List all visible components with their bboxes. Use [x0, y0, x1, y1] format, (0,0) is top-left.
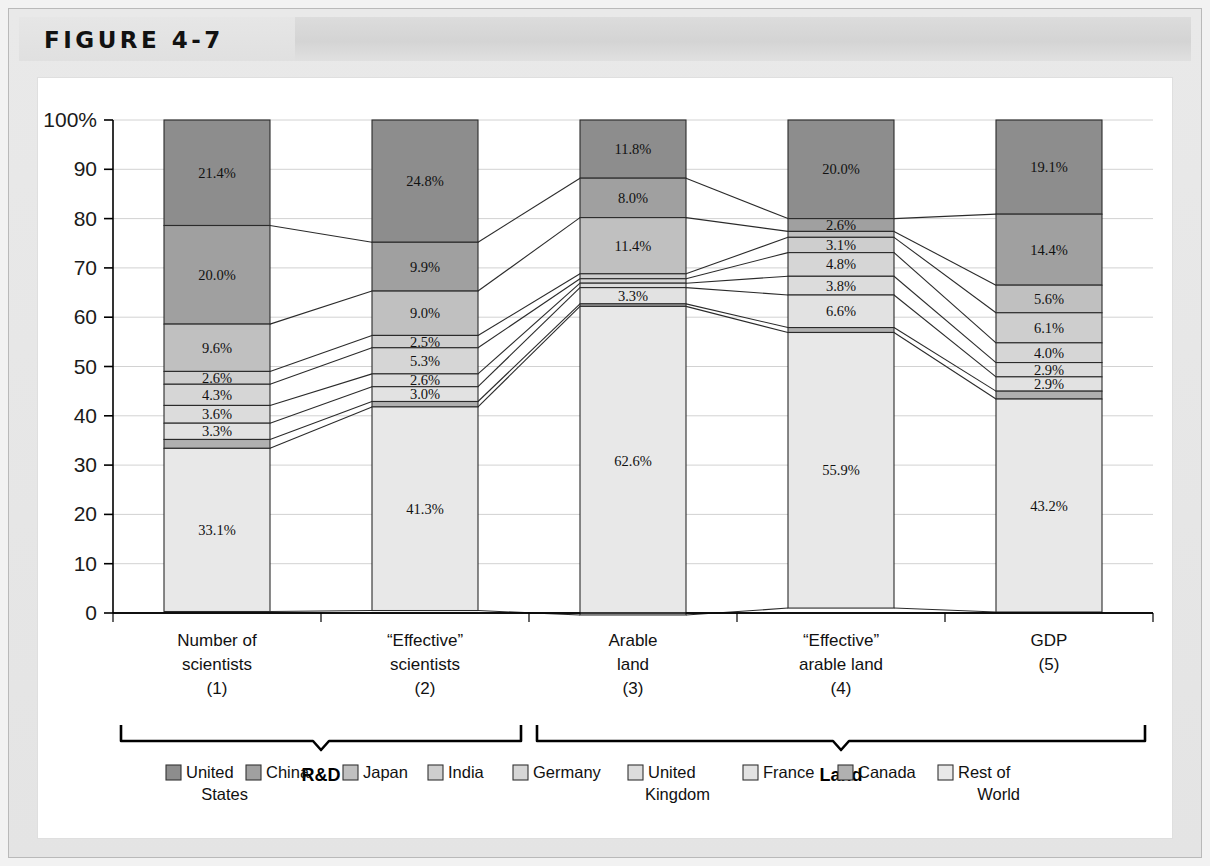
connector-line	[478, 304, 580, 402]
bar-segment	[580, 274, 686, 279]
legend-label: India	[448, 763, 485, 781]
connector-line	[686, 288, 788, 295]
legend-label: China	[266, 763, 310, 781]
legend-swatch	[938, 765, 953, 780]
connector-line	[894, 276, 996, 362]
segment-value-label: 4.0%	[1034, 345, 1064, 361]
legend-label: World	[977, 785, 1020, 803]
connector-line	[478, 306, 580, 407]
category-label-line: (3)	[623, 679, 644, 698]
segment-value-label: 3.1%	[826, 237, 856, 253]
category-label-line: arable land	[799, 655, 883, 674]
segment-value-label: 3.3%	[618, 288, 648, 304]
y-tick-label: 80	[74, 207, 97, 230]
segment-value-label: 9.6%	[202, 340, 232, 356]
legend-swatch	[246, 765, 261, 780]
segment-value-label: 3.6%	[202, 406, 232, 422]
category-labels: Number ofscientists(1)“Effective”scienti…	[177, 631, 1067, 698]
segment-value-label: 24.8%	[406, 173, 443, 189]
connector-line	[270, 226, 372, 243]
connector-line	[894, 253, 996, 343]
segment-value-label: 3.3%	[202, 423, 232, 439]
segment-value-label: 14.4%	[1030, 242, 1067, 258]
y-axis-tick-labels: 100%9080706050403020100	[43, 108, 97, 624]
segment-value-label: 20.0%	[198, 267, 235, 283]
legend-label: Kingdom	[645, 785, 710, 803]
segment-value-label: 41.3%	[406, 501, 443, 517]
connector-line	[894, 332, 996, 399]
legend-label: United	[186, 763, 234, 781]
connector-line	[478, 178, 580, 242]
segment-value-label: 8.0%	[618, 190, 648, 206]
connector-line	[270, 291, 372, 324]
legend-swatch	[343, 765, 358, 780]
segment-value-label: 55.9%	[822, 462, 859, 478]
connector-line	[894, 295, 996, 377]
segment-value-label: 43.2%	[1030, 498, 1067, 514]
bar-segment	[372, 402, 478, 407]
legend-label: United	[648, 763, 696, 781]
connector-line	[270, 402, 372, 440]
category-label-line: (4)	[831, 679, 852, 698]
category-label-line: scientists	[390, 655, 460, 674]
connector-line	[686, 178, 788, 218]
legend-label: Canada	[858, 763, 917, 781]
connector-line	[894, 231, 996, 285]
y-tick-label: 100%	[43, 108, 97, 131]
legend-label: States	[201, 785, 248, 803]
segment-value-label: 2.6%	[202, 370, 232, 386]
legend-label: France	[763, 763, 814, 781]
connector-line	[686, 306, 788, 332]
group-bracket	[537, 725, 1145, 750]
category-label-line: “Effective”	[387, 631, 464, 650]
category-label-line: (2)	[415, 679, 436, 698]
segment-value-label: 62.6%	[614, 453, 651, 469]
connector-line	[686, 304, 788, 328]
segment-value-label: 20.0%	[822, 161, 859, 177]
segment-value-label: 2.5%	[410, 334, 440, 350]
figure-frame: FIGURE 4-7 21.4%20.0%9.6%2.6%4.3%3.6%3.3…	[8, 8, 1202, 858]
category-label-line: Arable	[608, 631, 657, 650]
connector-line	[478, 218, 580, 291]
y-tick-label: 20	[74, 502, 97, 525]
segment-value-label: 6.1%	[1034, 320, 1064, 336]
connector-line	[478, 274, 580, 336]
category-label-line: land	[617, 655, 649, 674]
category-label-line: (5)	[1039, 655, 1060, 674]
legend-label: Japan	[363, 763, 408, 781]
bar-segment	[580, 279, 686, 283]
connector-line	[478, 283, 580, 374]
legend-swatch	[743, 765, 758, 780]
y-tick-label: 70	[74, 256, 97, 279]
connector-line	[270, 611, 372, 612]
chart-legend: UnitedStatesChinaJapanIndiaGermanyUnited…	[166, 763, 1020, 803]
legend-label: Rest of	[958, 763, 1011, 781]
segment-value-label: 3.8%	[826, 278, 856, 294]
legend-swatch	[166, 765, 181, 780]
segment-value-label: 5.6%	[1034, 291, 1064, 307]
segment-value-label: 4.3%	[202, 387, 232, 403]
y-tick-label: 50	[74, 355, 97, 378]
connector-line	[894, 608, 996, 612]
legend-swatch	[428, 765, 443, 780]
connector-line	[270, 387, 372, 423]
connector-line	[686, 218, 788, 232]
segment-value-label: 9.9%	[410, 259, 440, 275]
category-label-line: (1)	[207, 679, 228, 698]
y-tick-label: 10	[74, 552, 97, 575]
category-label-line: scientists	[182, 655, 252, 674]
segment-value-label: 11.4%	[615, 238, 652, 254]
connector-line	[894, 214, 996, 218]
category-label-line: Number of	[177, 631, 257, 650]
legend-label: Germany	[533, 763, 602, 781]
group-bracket	[121, 725, 521, 750]
segment-value-label: 9.0%	[410, 305, 440, 321]
chart-panel: 21.4%20.0%9.6%2.6%4.3%3.6%3.3%33.1%24.8%…	[37, 77, 1173, 839]
segment-value-label: 33.1%	[198, 522, 235, 538]
segment-value-label: 2.9%	[1034, 376, 1064, 392]
segment-value-label: 19.1%	[1030, 159, 1067, 175]
bar-segment	[996, 391, 1102, 399]
legend-swatch	[513, 765, 528, 780]
y-tick-label: 90	[74, 157, 97, 180]
y-tick-label: 0	[85, 601, 97, 624]
